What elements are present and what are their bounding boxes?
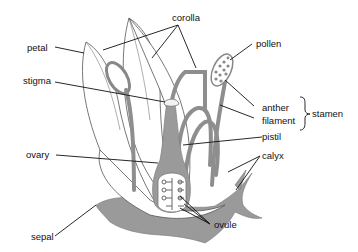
label-sepal: sepal: [31, 231, 54, 242]
label-petal: petal: [27, 42, 48, 53]
label-stigma: stigma: [23, 75, 52, 86]
label-filament: filament: [262, 115, 296, 126]
flower-structure-diagram: corolla petal pollen stigma anther filam…: [0, 0, 358, 252]
stamen-brace: [300, 97, 310, 130]
label-ovary: ovary: [26, 149, 49, 160]
label-ovule: ovule: [214, 219, 237, 230]
label-pistil: pistil: [262, 131, 281, 142]
label-calyx: calyx: [262, 150, 284, 161]
label-anther: anther: [262, 102, 289, 113]
label-pollen: pollen: [256, 38, 281, 49]
label-corolla: corolla: [172, 12, 201, 23]
right-stamen: [207, 51, 238, 185]
label-stamen: stamen: [312, 108, 343, 119]
